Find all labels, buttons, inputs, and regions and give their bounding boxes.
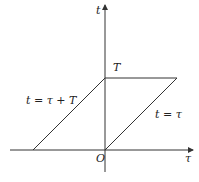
line-t-eq-tau-plus-T (33, 78, 105, 150)
left-line-label: t = τ + T (26, 94, 78, 107)
tau-axis-label: τ (185, 152, 192, 165)
diagram-canvas: t τ O T t = τ + T t = τ (0, 0, 199, 182)
t-axis-label: t (96, 4, 101, 17)
origin-label: O (96, 152, 105, 165)
T-label: T (113, 61, 122, 74)
right-line-label: t = τ (155, 108, 183, 121)
